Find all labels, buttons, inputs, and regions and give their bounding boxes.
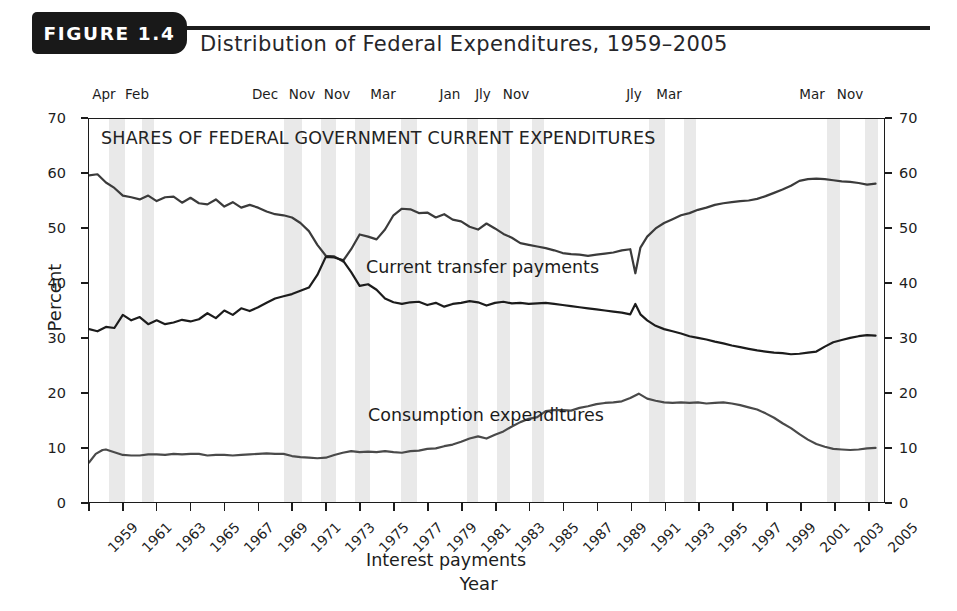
y-tick-label-right-20: 20: [899, 385, 917, 401]
y-tick-label-left-10: 10: [48, 440, 66, 456]
x-tick-mark-1973: [325, 503, 327, 511]
x-tick-mark-1993: [665, 503, 667, 511]
y-tick-label-right-0: 0: [899, 495, 908, 511]
x-tick-mark-1983: [495, 503, 497, 511]
x-tick-label-2003: 2003: [851, 519, 888, 556]
x-tick-mark-2005: [868, 503, 870, 511]
y-tick-label-left-70: 70: [48, 110, 66, 126]
x-tick-label-2005: 2005: [884, 519, 921, 556]
recession-month-label-10: Mar: [656, 86, 681, 102]
x-tick-mark-1959: [88, 503, 90, 511]
x-tick-mark-1963: [156, 503, 158, 511]
y-tick-mark-left-0: [81, 502, 88, 504]
figure-root: FIGURE 1.4 Distribution of Federal Expen…: [0, 0, 957, 611]
y-tick-label-right-30: 30: [899, 330, 917, 346]
x-tick-label-1995: 1995: [715, 519, 752, 556]
x-tick-label-1965: 1965: [206, 519, 243, 556]
x-tick-mark-2001: [800, 503, 802, 511]
y-tick-label-right-60: 60: [899, 165, 917, 181]
x-tick-mark-1961: [122, 503, 124, 511]
y-tick-mark-left-70: [81, 117, 88, 119]
header-rule: [140, 26, 930, 30]
x-tick-mark-1965: [190, 503, 192, 511]
x-tick-mark-1985: [529, 503, 531, 511]
y-tick-mark-left-10: [81, 447, 88, 449]
recession-month-label-3: Nov: [289, 86, 315, 102]
x-tick-mark-1995: [698, 503, 700, 511]
x-tick-label-1999: 1999: [783, 519, 820, 556]
recession-month-label-8: Nov: [503, 86, 529, 102]
x-tick-mark-1979: [427, 503, 429, 511]
y-tick-mark-right-30: [885, 337, 892, 339]
recession-month-label-11: Mar: [799, 86, 824, 102]
x-tick-label-1967: 1967: [240, 519, 277, 556]
x-tick-mark-1989: [597, 503, 599, 511]
x-tick-label-1971: 1971: [308, 519, 345, 556]
x-tick-mark-1969: [258, 503, 260, 511]
series-line-interest-payments: [89, 394, 876, 463]
figure-number-tab: FIGURE 1.4: [32, 12, 187, 54]
y-tick-label-right-50: 50: [899, 220, 917, 236]
x-tick-mark-1971: [291, 503, 293, 511]
x-tick-mark-1981: [461, 503, 463, 511]
figure-title: Distribution of Federal Expenditures, 19…: [200, 32, 728, 56]
y-tick-mark-right-70: [885, 117, 892, 119]
y-tick-label-left-20: 20: [48, 385, 66, 401]
plot-area: [88, 118, 885, 503]
y-tick-mark-left-60: [81, 172, 88, 174]
y-tick-mark-left-50: [81, 227, 88, 229]
y-tick-label-left-50: 50: [48, 220, 66, 236]
y-tick-label-left-40: 40: [48, 275, 66, 291]
y-tick-mark-right-40: [885, 282, 892, 284]
y-tick-mark-right-10: [885, 447, 892, 449]
x-tick-label-1989: 1989: [613, 519, 650, 556]
recession-month-label-1: Feb: [125, 86, 149, 102]
y-tick-mark-left-30: [81, 337, 88, 339]
y-tick-label-left-0: 0: [57, 495, 66, 511]
x-tick-label-1985: 1985: [545, 519, 582, 556]
x-tick-mark-1975: [359, 503, 361, 511]
x-tick-label-1997: 1997: [749, 519, 786, 556]
x-tick-mark-1999: [766, 503, 768, 511]
x-tick-label-1969: 1969: [274, 519, 311, 556]
x-tick-mark-2003: [834, 503, 836, 511]
chart-area: AprFebDecNovNovMarJanJlyNovJlyMarMarNov …: [0, 72, 957, 611]
y-tick-mark-left-20: [81, 392, 88, 394]
x-tick-label-1963: 1963: [172, 519, 209, 556]
x-tick-mark-1987: [563, 503, 565, 511]
recession-month-label-0: Apr: [92, 86, 115, 102]
y-tick-label-right-10: 10: [899, 440, 917, 456]
x-axis-title: Year: [0, 573, 957, 594]
y-tick-label-left-60: 60: [48, 165, 66, 181]
series-label-consumption-expenditures: Consumption expenditures: [368, 405, 604, 425]
recession-month-label-5: Mar: [370, 86, 395, 102]
y-tick-mark-right-60: [885, 172, 892, 174]
x-tick-label-1983: 1983: [511, 519, 548, 556]
y-tick-mark-left-40: [81, 282, 88, 284]
recession-month-label-4: Nov: [324, 86, 350, 102]
x-tick-mark-1967: [224, 503, 226, 511]
x-tick-label-1987: 1987: [579, 519, 616, 556]
figure-header: FIGURE 1.4 Distribution of Federal Expen…: [0, 0, 957, 72]
y-tick-mark-right-20: [885, 392, 892, 394]
y-tick-label-right-70: 70: [899, 110, 917, 126]
x-tick-label-1959: 1959: [104, 519, 141, 556]
x-tick-label-1961: 1961: [138, 519, 175, 556]
series-label-current-transfer-payments: Current transfer payments: [366, 257, 599, 277]
series-label-interest-payments: Interest payments: [366, 550, 526, 570]
y-tick-label-left-30: 30: [48, 330, 66, 346]
plot-inner-title: SHARES OF FEDERAL GOVERNMENT CURRENT EXP…: [101, 128, 655, 148]
x-tick-mark-1997: [732, 503, 734, 511]
recession-month-label-12: Nov: [837, 86, 863, 102]
x-tick-label-1993: 1993: [681, 519, 718, 556]
x-tick-label-2001: 2001: [817, 519, 854, 556]
y-tick-label-right-40: 40: [899, 275, 917, 291]
x-tick-mark-1977: [393, 503, 395, 511]
x-tick-label-1991: 1991: [647, 519, 684, 556]
series-lines: [89, 119, 884, 502]
recession-month-label-9: Jly: [626, 86, 642, 102]
x-tick-mark-1991: [631, 503, 633, 511]
figure-number-label: FIGURE 1.4: [32, 12, 187, 54]
recession-month-label-7: Jly: [475, 86, 491, 102]
y-tick-mark-right-50: [885, 227, 892, 229]
